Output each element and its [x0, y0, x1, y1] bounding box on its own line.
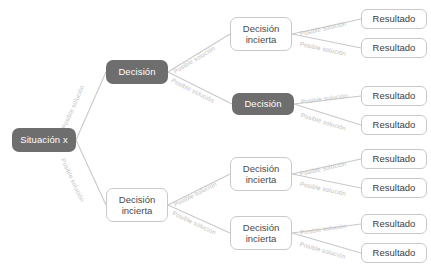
edge-e8	[294, 104, 361, 125]
edge-e14	[292, 233, 361, 253]
edge-e5	[292, 19, 361, 34]
node-root[interactable]: Situación x	[12, 128, 76, 152]
edge-e4	[168, 72, 232, 104]
node-label: Decisión incierta	[119, 194, 155, 216]
edge-e6	[292, 34, 361, 48]
node-label: Resultado	[373, 42, 416, 53]
node-label: Resultado	[373, 119, 416, 130]
node-d2[interactable]: Decisión incierta	[230, 17, 292, 51]
node-d5[interactable]: Decisión incierta	[230, 157, 292, 191]
node-label: Situación x	[20, 134, 68, 145]
node-d1[interactable]: Decisión	[106, 60, 168, 84]
node-label: Decisión	[118, 66, 155, 77]
node-d3[interactable]: Decisión	[232, 93, 294, 115]
decision-tree-canvas: Posible soluciónPosible soluciónPosible …	[0, 0, 431, 279]
node-r1[interactable]: Resultado	[361, 9, 427, 29]
node-label: Decisión incierta	[243, 23, 279, 45]
node-label: Resultado	[373, 153, 416, 164]
edge-e9	[168, 174, 230, 205]
node-r5[interactable]: Resultado	[361, 149, 427, 169]
node-label: Resultado	[373, 182, 416, 193]
edge-e13	[292, 224, 361, 233]
edge-e2	[76, 140, 106, 205]
edge-e10	[168, 205, 230, 233]
node-label: Resultado	[373, 218, 416, 229]
edge-e11	[292, 159, 361, 174]
node-d4[interactable]: Decisión incierta	[106, 188, 168, 222]
node-r3[interactable]: Resultado	[361, 86, 427, 106]
node-label: Decisión incierta	[243, 163, 279, 185]
edge-e1	[76, 72, 106, 140]
edge-e7	[294, 96, 361, 104]
node-r4[interactable]: Resultado	[361, 115, 427, 135]
edge-e12	[292, 174, 361, 188]
node-label: Decisión	[244, 98, 281, 109]
node-r7[interactable]: Resultado	[361, 214, 427, 234]
node-r6[interactable]: Resultado	[361, 178, 427, 198]
node-label: Resultado	[373, 90, 416, 101]
node-label: Decisión incierta	[243, 222, 279, 244]
node-r2[interactable]: Resultado	[361, 38, 427, 58]
node-label: Resultado	[373, 13, 416, 24]
node-r8[interactable]: Resultado	[361, 243, 427, 263]
edge-e3	[168, 34, 230, 72]
node-d6[interactable]: Decisión incierta	[230, 216, 292, 250]
node-label: Resultado	[373, 247, 416, 258]
